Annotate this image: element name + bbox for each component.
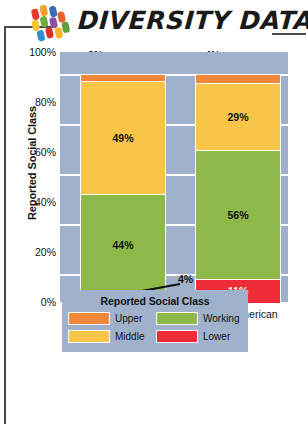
legend-items: Upper Working Middle Lower: [62, 307, 248, 343]
legend-item-working[interactable]: Working: [156, 312, 242, 325]
legend-label: Working: [203, 313, 240, 324]
chart-container: Reported Social Class 100% 80% 60% 40% 2…: [0, 52, 308, 424]
legend-label: Middle: [115, 331, 144, 342]
segment-white-middle[interactable]: 49%: [80, 81, 166, 194]
y-tick-80: 80%: [12, 96, 56, 108]
legend-swatch-working: [156, 312, 198, 325]
segment-aa-upper[interactable]: [195, 74, 281, 83]
bar-white[interactable]: 49% 44%: [80, 74, 166, 304]
y-tick-20: 20%: [12, 246, 56, 258]
chart-legend: Reported Social Class Upper Working Midd…: [62, 290, 248, 352]
legend-item-lower[interactable]: Lower: [156, 330, 242, 343]
segment-aa-middle[interactable]: 29%: [195, 83, 281, 150]
legend-item-upper[interactable]: Upper: [68, 312, 154, 325]
bar-african-american[interactable]: 29% 56% 11%: [195, 74, 281, 304]
legend-label: Lower: [203, 331, 230, 342]
y-tick-0: 0%: [12, 296, 56, 308]
plot-area: 49% 44% 29% 56% 11% 4%: [60, 52, 288, 304]
y-axis-ticks: 100% 80% 60% 40% 20% 0%: [8, 52, 56, 312]
segment-label: 56%: [227, 209, 248, 221]
legend-title: Reported Social Class: [62, 290, 248, 307]
legend-swatch-upper: [68, 312, 110, 325]
legend-swatch-middle: [68, 330, 110, 343]
y-tick-100: 100%: [12, 46, 56, 58]
segment-label: 49%: [112, 132, 133, 144]
y-tick-60: 60%: [12, 146, 56, 158]
segment-label: 44%: [112, 239, 133, 251]
legend-label: Upper: [115, 313, 142, 324]
legend-swatch-lower: [156, 330, 198, 343]
y-tick-40: 40%: [12, 196, 56, 208]
page-title: DIVERSITY DATA: [77, 6, 308, 35]
mosaic-tiles-icon: [28, 2, 72, 44]
segment-aa-working[interactable]: 56%: [195, 150, 281, 279]
legend-item-middle[interactable]: Middle: [68, 330, 154, 343]
callout-white-lower: 4%: [178, 273, 193, 285]
segment-white-upper[interactable]: [80, 74, 166, 81]
page-header: DIVERSITY DATA: [0, 0, 308, 52]
segment-label: 29%: [227, 111, 248, 123]
